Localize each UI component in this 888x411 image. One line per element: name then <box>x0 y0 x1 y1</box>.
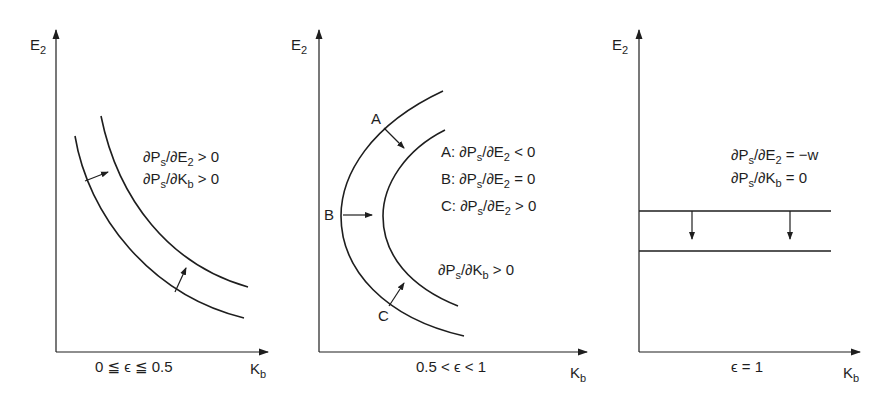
panel-2-annotation-kb: ∂Ps/∂Kb > 0 <box>438 261 514 279</box>
panel-1-shift-arrow-lower <box>175 268 186 292</box>
panel-2-arrow-c <box>389 283 404 306</box>
panel-3-regime-label: ϵ = 1 <box>731 358 763 376</box>
panel-3-y-axis-label: E2 <box>612 36 628 54</box>
panel-1-graphics <box>56 30 268 352</box>
panel-1-y-axis-label: E2 <box>30 36 46 54</box>
panel-3-annotation-2: ∂Ps/∂Kb = 0 <box>731 169 807 187</box>
panel-1-regime-label: 0 ≦ ϵ ≦ 0.5 <box>95 358 173 376</box>
panel-1-annotation-1: ∂Ps/∂E2 > 0 <box>143 148 219 166</box>
panel-2-graphics <box>319 30 587 352</box>
panel-2-regime-label: 0.5 < ϵ < 1 <box>416 358 486 376</box>
panel-1-annotation-2: ∂Ps/∂Kb > 0 <box>143 170 219 188</box>
panel-2-annotation-a: A: ∂Ps/∂E2 < 0 <box>441 143 535 161</box>
panel-3-x-axis-label: Kb <box>843 364 859 382</box>
panel-2-y-axis-label: E2 <box>291 36 307 54</box>
panel-2-point-c: C <box>378 307 389 325</box>
panel-2-annotation-b: B: ∂Ps/∂E2 = 0 <box>441 170 535 188</box>
panel-2-annotation-c: C: ∂Ps/∂E2 > 0 <box>441 197 536 215</box>
panel-1-x-axis-label: Kb <box>250 360 266 378</box>
panel-3-graphics <box>639 30 860 352</box>
panel-1-shift-arrow-upper <box>85 172 108 181</box>
panel-1-curve-outer <box>101 116 248 287</box>
panel-2-x-axis-label: Kb <box>570 364 586 382</box>
panel-2-arrow-a <box>384 128 404 148</box>
panel-2-point-b: B <box>324 206 334 224</box>
panel-3-annotation-1: ∂Ps/∂E2 = −w <box>731 146 818 164</box>
panel-2-point-a: A <box>371 110 381 128</box>
